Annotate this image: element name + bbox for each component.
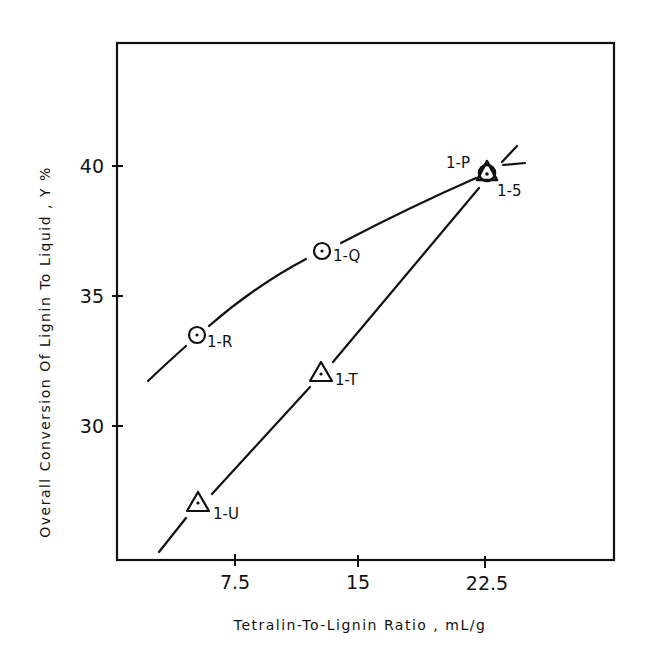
label-1-Q: 1-Q xyxy=(333,247,360,265)
label-1-S: 1-5 xyxy=(497,182,522,200)
circle-marker-1-Q xyxy=(314,243,330,259)
label-1-R: 1-R xyxy=(207,333,232,351)
x-tick-22.5: 22.5 xyxy=(466,572,508,594)
x-axis-title: Tetralin-To-Lignin Ratio , mL/g xyxy=(233,617,487,633)
triangle-marker-1-U xyxy=(187,492,209,511)
circle-marker-1-R xyxy=(189,327,205,343)
x-tick-15: 15 xyxy=(346,571,370,593)
x-tick-7.5: 7.5 xyxy=(220,571,250,593)
y-tick-30: 30 xyxy=(80,415,104,437)
label-1-P: 1-P xyxy=(446,154,470,172)
y-axis-title: Overall Conversion Of Lignin To Liquid ,… xyxy=(37,166,53,538)
marker-1-P-1-S xyxy=(477,161,497,181)
y-tick-35: 35 xyxy=(80,285,104,307)
triangle-series-curve xyxy=(159,163,525,552)
chart: 40 35 30 7.5 15 22.5 Tetralin-To-Lignin … xyxy=(0,0,648,669)
label-1-U: 1-U xyxy=(213,505,239,523)
y-tick-40: 40 xyxy=(80,155,104,177)
triangle-marker-1-T xyxy=(310,362,332,381)
label-1-T: 1-T xyxy=(335,371,359,389)
y-axis-tick-labels: 40 35 30 xyxy=(80,155,104,437)
x-axis-tick-labels: 7.5 15 22.5 xyxy=(220,571,508,594)
plot-frame xyxy=(117,43,614,560)
